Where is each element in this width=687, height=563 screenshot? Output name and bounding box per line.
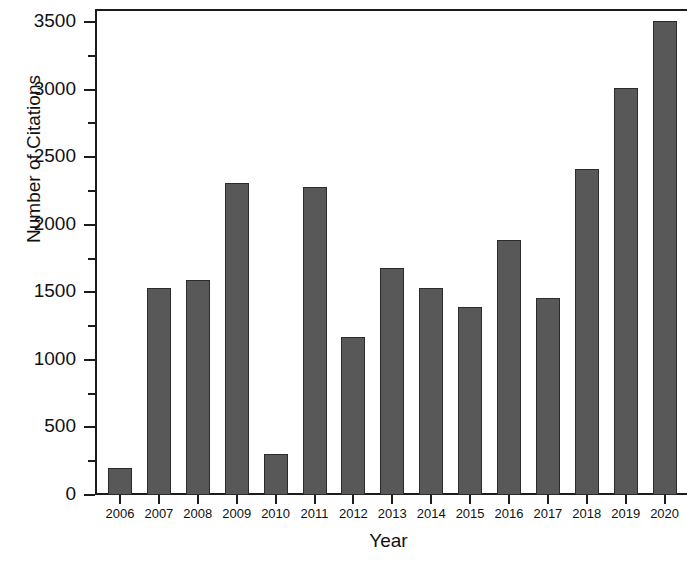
bar-2018: [575, 169, 599, 495]
x-tick-label-2008: 2008: [178, 506, 218, 521]
x-tick-label-2010: 2010: [256, 506, 296, 521]
x-tick-label-2009: 2009: [217, 506, 257, 521]
bar-2012: [341, 337, 365, 495]
x-tick-2006: [119, 495, 121, 504]
x-tick-label-2017: 2017: [528, 506, 568, 521]
bar-2013: [380, 268, 404, 495]
bar-2019: [614, 88, 638, 495]
x-tick-label-2019: 2019: [606, 506, 646, 521]
y-tick-minor-1250: [88, 325, 95, 327]
x-tick-2011: [314, 495, 316, 504]
y-tick-label-1000: 1000: [6, 348, 76, 370]
x-tick-label-2013: 2013: [372, 506, 412, 521]
x-tick-label-2014: 2014: [411, 506, 451, 521]
bar-2015: [458, 307, 482, 495]
y-tick-major-500: [84, 426, 95, 428]
x-tick-label-2020: 2020: [645, 506, 685, 521]
y-tick-minor-250: [88, 460, 95, 462]
x-axis-title: Year: [95, 530, 682, 552]
x-tick-2020: [664, 495, 666, 504]
y-tick-label-2000: 2000: [6, 213, 76, 235]
x-tick-label-2015: 2015: [450, 506, 490, 521]
y-tick-minor-2250: [88, 190, 95, 192]
plot-area: [95, 9, 687, 495]
bar-2020: [653, 21, 677, 495]
y-tick-minor-2750: [88, 122, 95, 124]
bar-2010: [264, 454, 288, 495]
bar-2014: [419, 288, 443, 495]
x-tick-2012: [352, 495, 354, 504]
x-tick-2007: [158, 495, 160, 504]
y-tick-major-2000: [84, 224, 95, 226]
bar-2007: [147, 288, 171, 495]
y-tick-major-1500: [84, 291, 95, 293]
x-tick-2009: [236, 495, 238, 504]
x-tick-label-2016: 2016: [489, 506, 529, 521]
y-tick-major-2500: [84, 156, 95, 158]
y-tick-label-3500: 3500: [6, 10, 76, 32]
y-tick-label-1500: 1500: [6, 280, 76, 302]
y-tick-major-3000: [84, 89, 95, 91]
y-tick-label-500: 500: [6, 415, 76, 437]
bar-2016: [497, 240, 521, 495]
x-tick-label-2011: 2011: [295, 506, 335, 521]
x-tick-2019: [625, 495, 627, 504]
bar-2017: [536, 298, 560, 495]
y-tick-major-3500: [84, 21, 95, 23]
y-tick-major-0: [84, 494, 95, 496]
x-tick-2015: [469, 495, 471, 504]
y-tick-label-2500: 2500: [6, 145, 76, 167]
y-tick-label-0: 0: [6, 483, 76, 505]
x-tick-2018: [586, 495, 588, 504]
y-tick-major-1000: [84, 359, 95, 361]
y-tick-minor-750: [88, 393, 95, 395]
bar-2008: [186, 280, 210, 495]
x-tick-2016: [508, 495, 510, 504]
bar-2011: [303, 187, 327, 495]
x-tick-2010: [275, 495, 277, 504]
x-tick-label-2007: 2007: [139, 506, 179, 521]
x-tick-label-2006: 2006: [100, 506, 140, 521]
x-tick-2013: [391, 495, 393, 504]
x-tick-2008: [197, 495, 199, 504]
bar-2009: [225, 183, 249, 495]
x-tick-2017: [547, 495, 549, 504]
y-tick-minor-1750: [88, 258, 95, 260]
y-tick-label-3000: 3000: [6, 78, 76, 100]
y-tick-minor-3250: [88, 55, 95, 57]
x-tick-2014: [430, 495, 432, 504]
x-tick-label-2018: 2018: [567, 506, 607, 521]
x-tick-label-2012: 2012: [333, 506, 373, 521]
bar-2006: [108, 468, 132, 495]
